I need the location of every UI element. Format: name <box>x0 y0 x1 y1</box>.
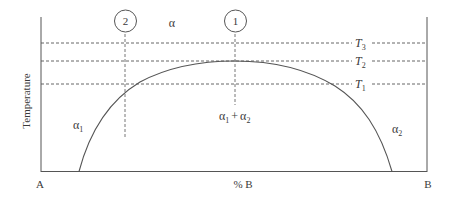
composition-marker-2-label: 2 <box>123 15 129 27</box>
region-alpha1: α1 <box>73 118 83 134</box>
isotherm-label-t2: T2 <box>355 54 366 70</box>
axis-label-percent-b: % B <box>233 178 252 190</box>
region-two-phase: α1+α2 <box>219 109 250 125</box>
isotherm-label-t1: T1 <box>355 77 366 93</box>
y-axis-label: Temperature <box>20 73 32 129</box>
isotherm-label-t3: T3 <box>355 36 366 52</box>
region-alpha2: α2 <box>392 122 402 138</box>
axis-label-b: B <box>424 178 431 190</box>
composition-marker-1-label: 1 <box>233 15 239 27</box>
axis-label-a: A <box>36 178 44 190</box>
region-alpha: α <box>169 16 176 30</box>
phase-diagram: T3 T2 T1 2 1 α α1 α1+α2 α2 A % B B Tempe… <box>0 0 449 198</box>
